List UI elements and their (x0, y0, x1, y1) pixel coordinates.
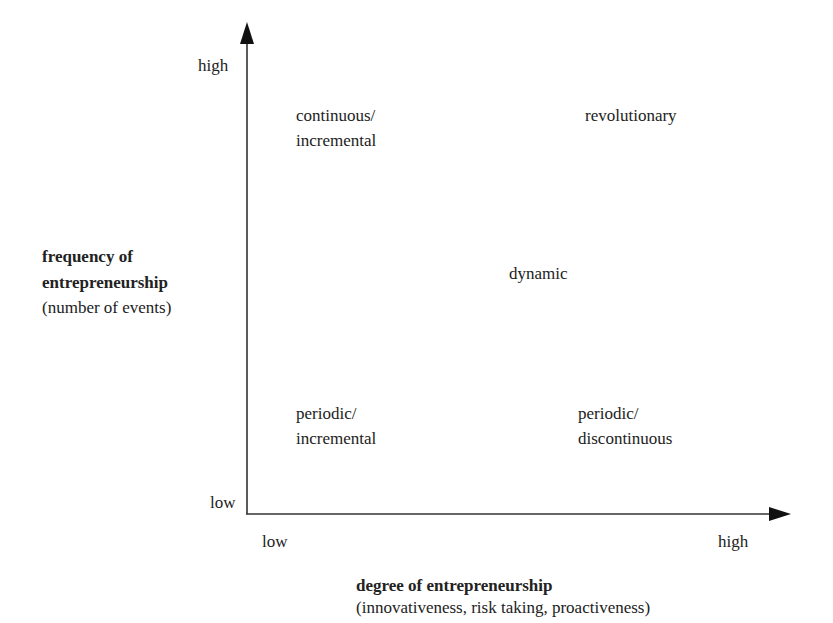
x-axis-arrowhead-icon (769, 507, 791, 521)
y-axis-low-label: low (210, 492, 236, 513)
y-axis-title: frequency of (42, 246, 133, 267)
quadrant-top-right-label: revolutionary (585, 105, 677, 126)
quadrant-bottom-left-line1: periodic/ (296, 403, 356, 424)
x-axis-low-label: low (262, 531, 288, 552)
quadrant-top-left-line1: continuous/ (296, 105, 375, 126)
x-axis-high-label: high (718, 531, 748, 552)
quadrant-top-left-line2: incremental (296, 130, 376, 151)
quadrant-center-label: dynamic (509, 263, 568, 284)
quadrant-bottom-left-line2: incremental (296, 428, 376, 449)
x-axis-subtitle: (innovativeness, risk taking, proactiven… (356, 597, 650, 618)
quadrant-bottom-right-line1: periodic/ (578, 403, 638, 424)
y-axis-arrowhead-icon (240, 22, 254, 44)
y-axis-subtitle: (number of events) (42, 297, 171, 318)
quadrant-bottom-right-line2: discontinuous (578, 428, 672, 449)
y-axis-high-label: high (198, 55, 228, 76)
x-axis-title: degree of entrepreneurship (356, 575, 552, 596)
y-axis-title-line2: entrepreneurship (42, 272, 168, 293)
